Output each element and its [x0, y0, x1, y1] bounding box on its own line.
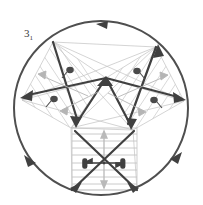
center-point: [103, 162, 106, 165]
top-arrowhead-icon: [96, 21, 108, 29]
symmetry-diagram-figure: 31: [0, 0, 203, 205]
symmetry-label-subscript: 1: [30, 34, 34, 42]
construction-lines: [22, 42, 184, 190]
page-title: 31: [24, 28, 33, 42]
